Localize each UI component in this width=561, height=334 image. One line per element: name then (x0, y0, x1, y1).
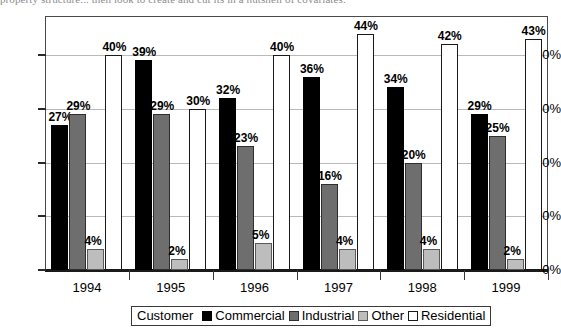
bar-other-1994[interactable] (87, 249, 104, 271)
bar-label-residential-1999: 43% (522, 25, 546, 37)
legend-label-commercial: Commercial (215, 309, 284, 323)
legend-title: Customer (137, 309, 198, 323)
bar-residential-1999[interactable] (525, 39, 542, 270)
bar-residential-1995[interactable] (189, 109, 206, 270)
x-tick-mark (213, 270, 214, 280)
x-tick-label-1998: 1998 (392, 281, 452, 295)
legend-label-other: Other (371, 309, 404, 323)
bar-label-other-1998: 4% (420, 235, 437, 247)
bar-residential-1997[interactable] (357, 34, 374, 271)
bar-label-industrial-1997: 16% (318, 170, 342, 182)
bar-label-residential-1998: 42% (438, 30, 462, 42)
legend-entry-industrial[interactable]: Industrial (289, 309, 355, 323)
y-tick-mark (38, 215, 46, 217)
bar-label-industrial-1999: 25% (486, 122, 510, 134)
bar-label-other-1995: 2% (168, 245, 185, 257)
legend-label-industrial: Industrial (302, 309, 355, 323)
bar-other-1999[interactable] (507, 259, 524, 270)
clipped-document-text: property structure... then look to creat… (0, 0, 561, 5)
bar-residential-1994[interactable] (105, 55, 122, 270)
bar-label-residential-1997: 44% (354, 20, 378, 32)
legend-entry-commercial[interactable]: Commercial (202, 309, 284, 323)
x-tick-label-1996: 1996 (225, 281, 285, 295)
bar-label-industrial-1995: 29% (150, 100, 174, 112)
bar-industrial-1998[interactable] (405, 163, 422, 271)
bar-residential-1998[interactable] (441, 44, 458, 270)
bar-label-other-1997: 4% (336, 235, 353, 247)
bar-commercial-1996[interactable] (219, 98, 236, 270)
bar-commercial-1994[interactable] (51, 125, 68, 270)
bar-label-industrial-1996: 23% (234, 132, 258, 144)
bar-label-commercial-1999: 29% (468, 100, 492, 112)
bar-label-other-1996: 5% (252, 229, 269, 241)
bar-label-commercial-1997: 36% (300, 63, 324, 75)
x-tick-mark (297, 270, 298, 280)
bar-label-industrial-1998: 20% (402, 149, 426, 161)
legend-swatch-commercial-icon (202, 311, 212, 321)
x-tick-mark (464, 270, 465, 280)
x-tick-label-1994: 1994 (57, 281, 117, 295)
bar-label-commercial-1995: 39% (132, 46, 156, 58)
bar-commercial-1995[interactable] (135, 60, 152, 270)
bar-label-other-1994: 4% (84, 235, 101, 247)
bar-label-industrial-1994: 29% (66, 100, 90, 112)
legend-swatch-industrial-icon (289, 311, 299, 321)
legend-swatch-residential-icon (408, 311, 418, 321)
x-tick-mark (380, 270, 381, 280)
legend-entry-residential[interactable]: Residential (408, 309, 485, 323)
bar-label-residential-1994: 40% (102, 41, 126, 53)
bar-residential-1996[interactable] (273, 55, 290, 270)
legend-entry-other[interactable]: Other (358, 309, 404, 323)
bar-commercial-1999[interactable] (471, 114, 488, 270)
x-tick-label-1999: 1999 (476, 281, 536, 295)
y-tick-mark (38, 162, 46, 164)
x-tick-label-1995: 1995 (141, 281, 201, 295)
y-tick-mark (38, 108, 46, 110)
bar-commercial-1998[interactable] (387, 87, 404, 270)
bar-label-other-1999: 2% (504, 245, 521, 257)
x-tick-mark (548, 270, 549, 280)
bar-other-1996[interactable] (255, 243, 272, 270)
x-tick-mark (129, 270, 130, 280)
y-tick-mark (38, 269, 46, 271)
bar-label-commercial-1996: 32% (216, 84, 240, 96)
bar-industrial-1997[interactable] (321, 184, 338, 270)
bar-industrial-1996[interactable] (237, 146, 254, 270)
bar-label-commercial-1998: 34% (384, 73, 408, 85)
bar-label-residential-1996: 40% (270, 41, 294, 53)
y-tick-mark (38, 54, 46, 56)
legend-label-residential: Residential (421, 309, 485, 323)
bar-other-1998[interactable] (423, 249, 440, 271)
bar-other-1997[interactable] (339, 249, 356, 271)
bar-other-1995[interactable] (171, 259, 188, 270)
x-tick-label-1997: 1997 (308, 281, 368, 295)
bar-label-residential-1995: 30% (186, 95, 210, 107)
legend-swatch-other-icon (358, 311, 368, 321)
chart-legend[interactable]: Customer CommercialIndustrialOtherReside… (131, 306, 491, 326)
